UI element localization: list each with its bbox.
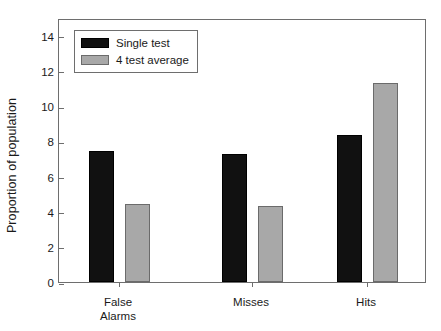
y-tick-mark: [59, 178, 64, 179]
legend-swatch-4-test-average: [81, 55, 109, 65]
x-axis-label-line: Alarms: [53, 310, 183, 324]
bar-chart-figure: Proportion of population 02468101214 Sin…: [0, 0, 441, 331]
y-tick-label: 10: [41, 102, 59, 114]
x-axis-label-false-alarms: FalseAlarms: [53, 296, 183, 323]
plot-area: 02468101214 Single test 4 test average: [58, 19, 426, 283]
x-tick-mark: [119, 282, 120, 287]
y-axis-title: Proportion of population: [0, 0, 24, 331]
y-tick-label: 2: [48, 243, 59, 255]
bar-4-test-average-false-alarms: [125, 204, 150, 282]
y-tick-mark: [59, 37, 64, 38]
legend-label-single-test: Single test: [116, 37, 170, 49]
y-tick-label: 12: [41, 67, 59, 79]
y-tick-label: 6: [48, 173, 59, 185]
x-axis-label-misses: Misses: [186, 296, 316, 310]
y-tick-mark: [59, 143, 64, 144]
y-tick-label: 0: [48, 278, 59, 290]
y-tick-label: 14: [41, 32, 59, 44]
y-tick-label: 8: [48, 137, 59, 149]
legend-item-4-test-average: 4 test average: [81, 53, 189, 67]
y-tick-mark: [59, 108, 64, 109]
x-tick-mark: [367, 282, 368, 287]
x-tick-mark: [252, 282, 253, 287]
y-tick-mark: [59, 248, 64, 249]
x-axis-label-hits: Hits: [301, 296, 431, 310]
bar-4-test-average-hits: [373, 83, 398, 282]
legend-label-4-test-average: 4 test average: [116, 54, 189, 66]
legend-item-single-test: Single test: [81, 36, 189, 50]
legend-swatch-single-test: [81, 38, 109, 48]
y-tick-mark: [59, 213, 64, 214]
bar-single-test-misses: [222, 154, 247, 282]
chart-legend: Single test 4 test average: [74, 30, 198, 73]
x-axis-label-line: False: [53, 296, 183, 310]
bar-single-test-hits: [337, 135, 362, 282]
x-axis-label-line: Misses: [186, 296, 316, 310]
bar-4-test-average-misses: [258, 206, 283, 282]
bar-single-test-false-alarms: [89, 151, 114, 282]
y-tick-mark: [59, 72, 64, 73]
y-tick-mark: [59, 284, 64, 285]
y-tick-label: 4: [48, 208, 59, 220]
x-axis-label-line: Hits: [301, 296, 431, 310]
